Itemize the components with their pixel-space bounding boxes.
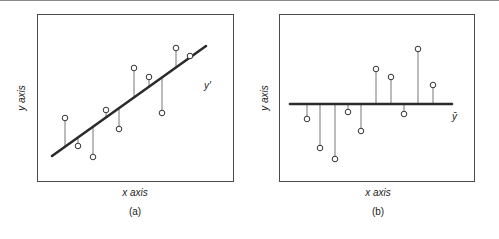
data-point	[358, 128, 364, 134]
data-point	[401, 111, 407, 117]
data-point	[373, 66, 379, 72]
panel-b-mean-plot: ȳ y axis x axis (b)	[0, 0, 499, 239]
panel-caption: (b)	[372, 206, 384, 217]
data-point	[345, 109, 351, 115]
x-axis-label: x axis	[364, 187, 391, 198]
data-point	[317, 145, 323, 151]
data-point	[388, 74, 394, 80]
y-axis-label: y axis	[259, 85, 270, 112]
data-point	[304, 116, 310, 122]
mean-line-label: ȳ	[451, 111, 458, 122]
data-point	[430, 82, 436, 88]
data-point	[332, 156, 338, 162]
panel-b-axes	[280, 15, 475, 182]
data-point	[415, 46, 421, 52]
plot-frame	[280, 15, 475, 182]
